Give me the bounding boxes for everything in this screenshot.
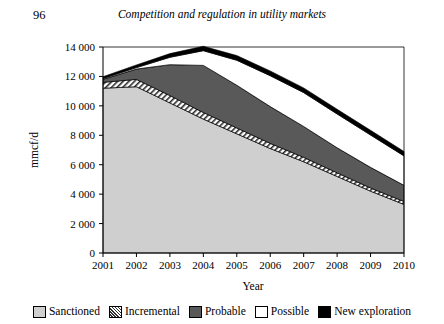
x-tick-label: 2009 — [360, 259, 383, 271]
x-tick-label: 2005 — [226, 259, 249, 271]
page-header: 96 Competition and regulation in utility… — [0, 0, 444, 28]
legend-label-incremental: Incremental — [125, 306, 180, 318]
x-tick-label: 2001 — [92, 259, 114, 271]
stacked-area-chart: 02 0004 0006 0008 00010 00012 00014 000 … — [0, 28, 444, 324]
legend-item-new-exploration: New exploration — [318, 306, 411, 318]
y-tick-label: 4 000 — [70, 188, 95, 200]
x-tick-label: 2003 — [159, 259, 182, 271]
y-tick-label: 10 000 — [65, 100, 96, 112]
x-tick-label: 2010 — [393, 259, 416, 271]
y-tick-label: 0 — [90, 247, 96, 259]
legend-label-possible: Possible — [271, 306, 309, 318]
x-tick-label: 2008 — [326, 259, 349, 271]
legend-item-incremental: Incremental — [109, 306, 180, 318]
legend-item-possible: Possible — [255, 306, 309, 318]
legend-swatch-sanctioned-icon — [33, 306, 46, 318]
y-tick-label: 2 000 — [70, 218, 95, 230]
x-tick-label: 2004 — [192, 259, 215, 271]
legend-swatch-probable-icon — [189, 306, 202, 318]
legend-swatch-possible-icon — [255, 306, 268, 318]
legend-swatch-incremental-icon — [109, 306, 122, 318]
x-tick-label: 2002 — [125, 259, 147, 271]
y-axis-ticks: 02 0004 0006 0008 00010 00012 00014 000 — [65, 41, 103, 259]
legend-item-sanctioned: Sanctioned — [33, 306, 100, 318]
legend-label-probable: Probable — [205, 306, 246, 318]
running-head: Competition and regulation in utility ma… — [0, 8, 444, 20]
y-tick-label: 12 000 — [65, 70, 96, 82]
x-tick-label: 2006 — [259, 259, 282, 271]
legend-label-sanctioned: Sanctioned — [49, 306, 100, 318]
y-tick-label: 8 000 — [70, 129, 95, 141]
y-tick-label: 14 000 — [65, 41, 96, 53]
chart-legend: Sanctioned Incremental Probable Possible… — [0, 306, 444, 318]
y-tick-label: 6 000 — [70, 159, 95, 171]
y-axis-title: mmcf/d — [28, 132, 40, 168]
x-tick-label: 2007 — [293, 259, 316, 271]
legend-item-probable: Probable — [189, 306, 246, 318]
legend-label-new-exploration: New exploration — [334, 306, 411, 318]
x-axis-title: Year — [242, 280, 263, 292]
chart-figure: 02 0004 0006 0008 00010 00012 00014 000 … — [0, 28, 444, 324]
x-axis-ticks: 2001200220032004200520062007200820092010 — [92, 253, 416, 271]
legend-swatch-new-exploration-icon — [318, 306, 331, 318]
